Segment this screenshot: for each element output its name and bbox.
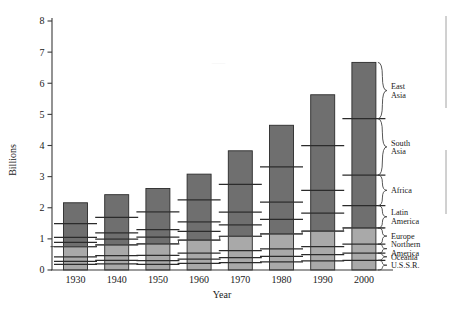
y-tick-label: 1 [40,233,45,244]
legend-label: America [391,217,420,226]
segment-u-s-s-r [64,264,88,270]
segment-europe [352,228,376,244]
legend-bracket [378,175,387,206]
segment-northern-america [352,244,376,253]
segment-u-s-s-r [187,263,211,270]
bar-1940[interactable] [95,195,138,270]
segment-africa [64,237,88,242]
legend-entry-south-asia[interactable]: SouthAsia [378,119,410,175]
y-tick-label: 7 [40,47,45,58]
legend-bracket [378,260,387,270]
segment-latin-america [228,225,252,237]
legend-entry-east-asia[interactable]: EastAsia [378,62,406,118]
bar-1990[interactable] [301,95,344,270]
legend-bracket [378,119,387,175]
segment-africa [270,202,294,219]
x-axis-title: Year [213,289,232,300]
legend-bracket [378,244,387,253]
segment-oceania [352,253,376,260]
bar-1980[interactable] [260,125,303,270]
legend-entry-latin-america[interactable]: LatinAmerica [378,206,420,228]
segment-northern-america [64,257,88,261]
watermark-artifact: — [211,54,226,69]
population-stacked-bar-chart: —012345678Billions1930194019501960197019… [0,0,454,309]
x-tick-label: 1960 [189,274,209,285]
y-tick-label: 0 [40,264,45,275]
segment-northern-america [105,256,129,261]
legend-entry-u-s-s-r[interactable]: U.S.S.R. [378,260,420,270]
segment-latin-america [64,242,88,246]
x-tick-label: 1930 [66,274,86,285]
y-tick-label: 2 [40,202,45,213]
y-tick-label: 8 [40,15,45,26]
legend-bracket [378,62,387,118]
segment-east-asia [352,62,376,118]
segment-oceania [311,255,335,261]
segment-latin-america [146,237,170,244]
segment-east-asia [228,151,252,185]
y-tick-label: 4 [40,140,45,151]
segment-south-asia [64,224,88,238]
legend-label: Asia [391,91,406,100]
bar-2000[interactable] [342,62,385,270]
legend-bracket [378,206,387,228]
segment-africa [352,175,376,206]
segment-oceania [187,259,211,263]
segment-south-asia [105,217,129,233]
x-tick-label: 2000 [354,274,374,285]
y-tick-label: 3 [40,171,45,182]
y-axis: 012345678Billions [7,15,52,275]
segment-northern-america [228,251,252,258]
bar-1930[interactable] [54,203,97,270]
segment-africa [105,233,129,239]
segment-u-s-s-r [311,261,335,270]
segment-east-asia [311,95,335,146]
segment-europe [228,236,252,250]
legend-label: Africa [391,186,412,195]
x-tick-label: 1980 [272,274,292,285]
segment-east-asia [187,174,211,200]
x-axis: 19301940195019601970198019902000Year [51,270,393,300]
segment-europe [105,245,129,256]
segment-south-asia [228,184,252,212]
segment-east-asia [146,188,170,211]
segment-europe [187,240,211,253]
legend-entry-africa[interactable]: Africa [378,175,412,206]
segment-u-s-s-r [270,262,294,270]
watermark-text: — [211,54,226,69]
segment-south-asia [311,146,335,191]
segment-northern-america [187,253,211,259]
segment-oceania [228,258,252,263]
bar-1960[interactable] [178,174,221,270]
legend-label: Asia [391,147,406,156]
y-tick-label: 5 [40,109,45,120]
segment-latin-america [311,213,335,231]
segment-latin-america [352,206,376,228]
segment-latin-america [187,231,211,240]
segment-northern-america [270,249,294,256]
segment-u-s-s-r [105,264,129,270]
segment-latin-america [270,219,294,234]
y-axis-title: Billions [7,144,18,176]
segment-northern-america [146,255,170,260]
segment-u-s-s-r [146,264,170,270]
legend-bracket [378,228,387,244]
legend: EastAsiaSouthAsiaAfricaLatinAmericaEurop… [378,62,421,270]
segment-oceania [270,256,294,262]
segment-u-s-s-r [228,263,252,270]
chart-canvas: —012345678Billions1930194019501960197019… [0,0,454,309]
segment-europe [64,247,88,257]
segment-east-asia [64,203,88,224]
segment-europe [146,244,170,256]
segment-u-s-s-r [352,260,376,270]
legend-bracket [378,253,387,260]
segment-south-asia [270,167,294,202]
segment-africa [311,190,335,213]
x-tick-label: 1940 [107,274,127,285]
segment-south-asia [146,212,170,230]
segment-south-asia [352,119,376,175]
bar-1970[interactable] [219,151,262,270]
bar-1950[interactable] [136,188,179,270]
segment-northern-america [311,247,335,255]
segment-europe [311,231,335,247]
